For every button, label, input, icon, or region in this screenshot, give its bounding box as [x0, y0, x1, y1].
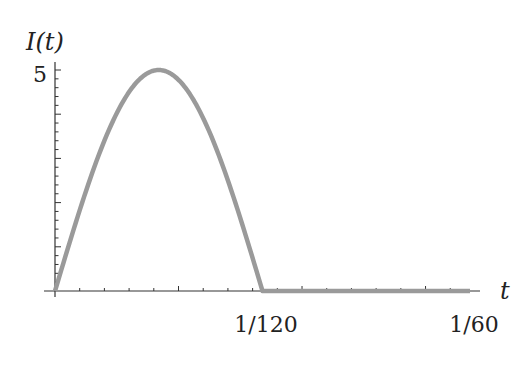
x-axis-label: t: [500, 277, 510, 305]
current-curve: [55, 70, 470, 291]
y-tick-label-5: 5: [33, 62, 47, 87]
x-tick-label-1-120: 1/120: [234, 312, 297, 337]
x-tick-label-1-60: 1/60: [449, 312, 498, 337]
y-axis-label: I(t): [25, 28, 64, 56]
chart-canvas: I(t) 5 t 1/120 1/60: [0, 0, 531, 373]
